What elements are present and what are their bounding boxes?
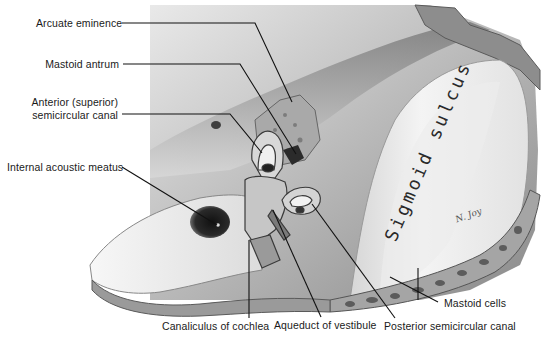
label-anterior-canal-line2: semicircular canal xyxy=(20,109,118,121)
label-arcuate-eminence: Arcuate eminence xyxy=(36,17,118,29)
anatomy-figure: Sigmoid sulcus N. Joy Arcuate eminence M… xyxy=(0,0,551,338)
label-mastoid-cells: Mastoid cells xyxy=(444,297,506,309)
internal-acoustic-meatus xyxy=(190,206,230,238)
label-canaliculus-of-cochlea: Canaliculus of cochlea xyxy=(162,320,269,332)
label-posterior-semicircular-canal: Posterior semicircular canal xyxy=(384,320,516,332)
label-mastoid-antrum: Mastoid antrum xyxy=(30,58,119,70)
label-aqueduct-of-vestibule: Aqueduct of vestibule xyxy=(274,319,377,331)
label-internal-acoustic-meatus: Internal acoustic meatus xyxy=(7,161,123,173)
label-anterior-canal-line1: Anterior (superior) xyxy=(20,96,118,108)
